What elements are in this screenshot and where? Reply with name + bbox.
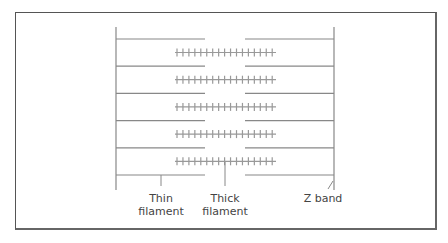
thick-filament-label: Thick filament — [200, 192, 250, 218]
z-band-label: Z band — [298, 192, 348, 205]
zband-leader-line — [328, 181, 333, 189]
thin-filament-label: Thin filament — [136, 192, 186, 218]
